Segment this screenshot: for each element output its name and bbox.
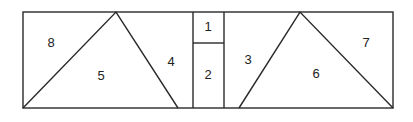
partition-diagram: 1 2 3 4 5 6 7 8 — [0, 0, 413, 122]
right-triangle — [239, 12, 393, 108]
region-label-2: 2 — [204, 67, 211, 82]
region-label-6: 6 — [312, 66, 319, 81]
region-label-5: 5 — [97, 68, 104, 83]
region-label-3: 3 — [244, 52, 251, 67]
region-label-7: 7 — [362, 35, 369, 50]
region-label-1: 1 — [204, 19, 211, 34]
left-triangle — [23, 12, 178, 108]
region-label-4: 4 — [167, 54, 174, 69]
region-label-8: 8 — [47, 35, 54, 50]
